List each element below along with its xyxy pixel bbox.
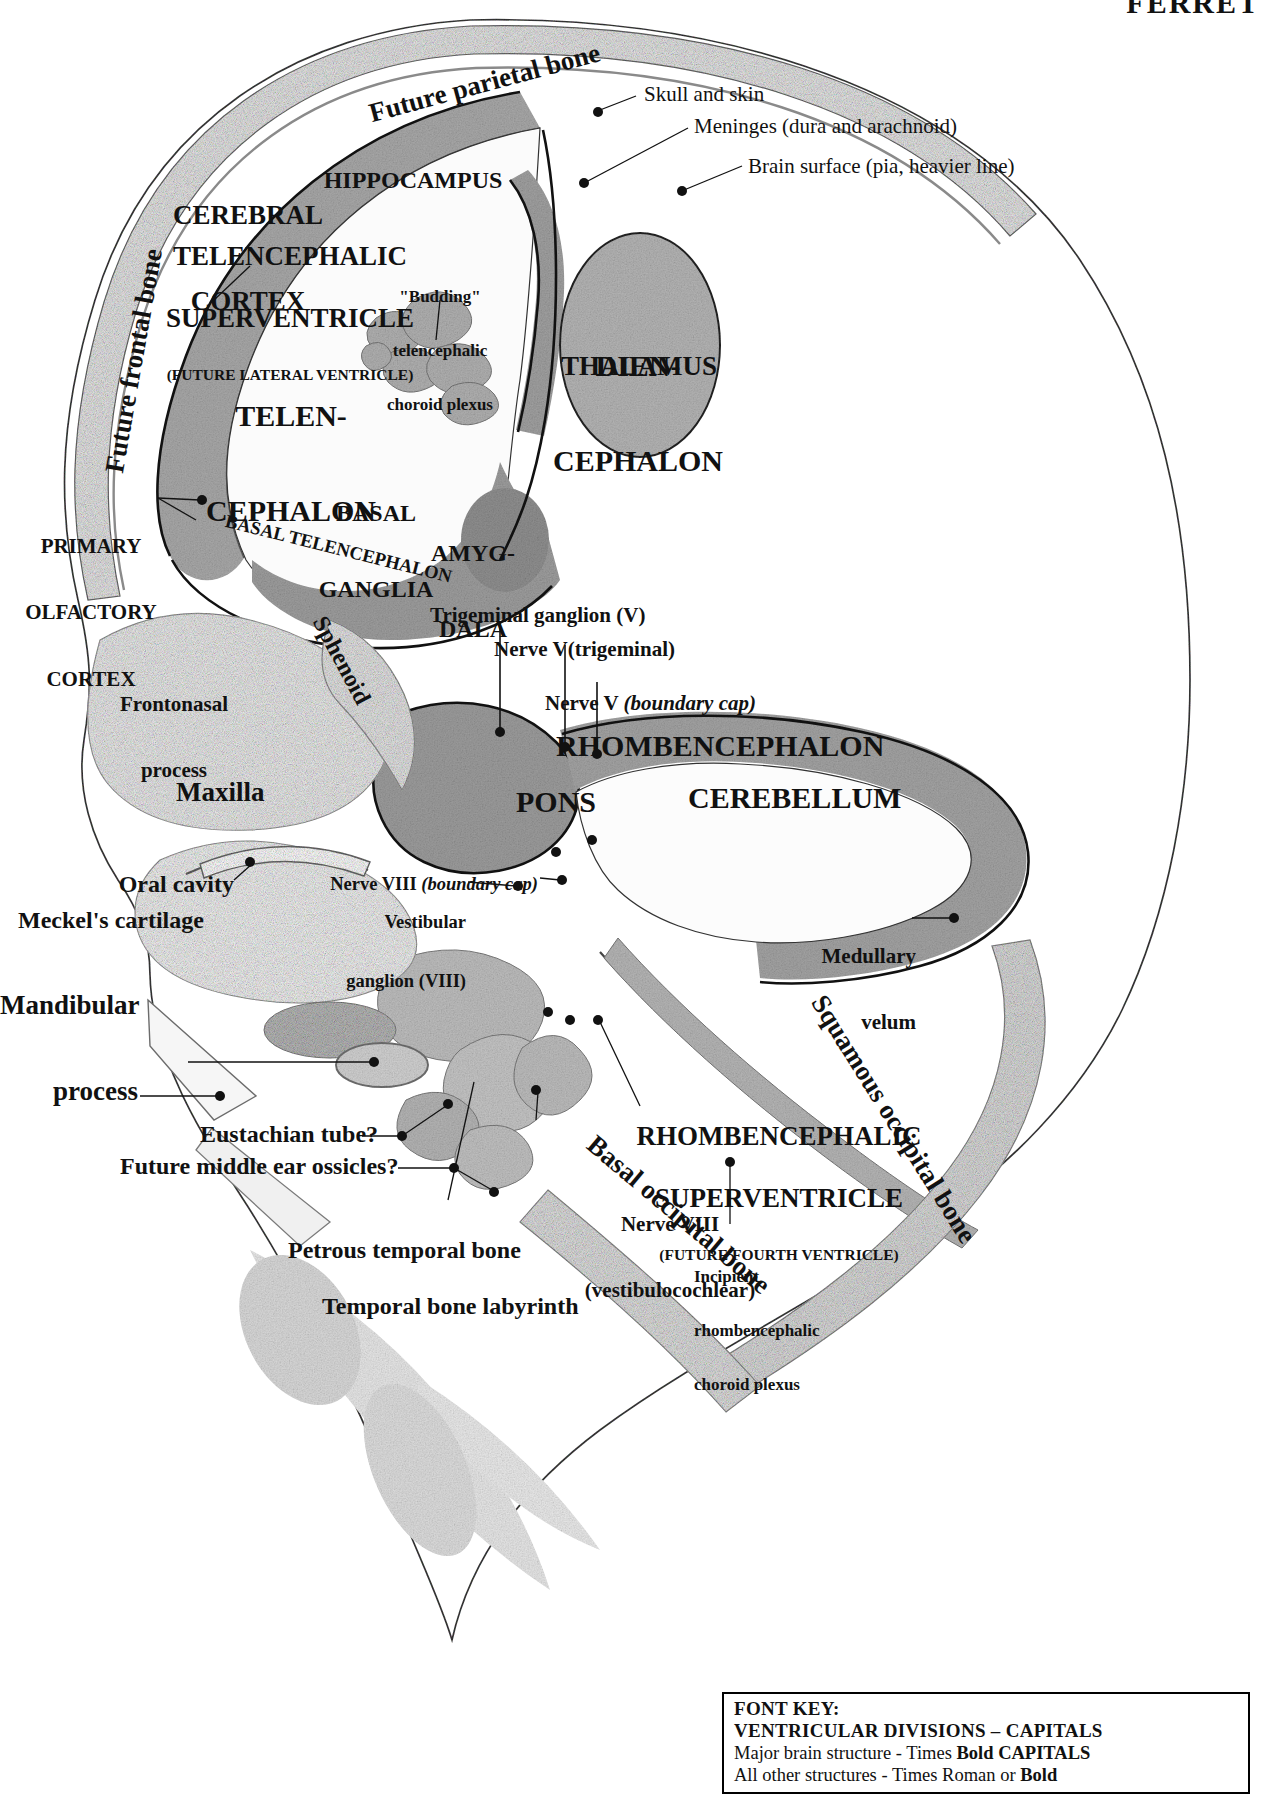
nerve-v-boundary-cap-qualifier: (boundary cap): [624, 691, 756, 715]
meckels-cartilage: [336, 1043, 428, 1087]
label-vestibular-ganglion: Vestibular ganglion (VIII): [290, 874, 466, 1031]
label-meninges: Meninges (dura and arachnoid): [694, 115, 957, 137]
label-meckels-cartilage: Meckel's cartilage: [18, 908, 184, 933]
label-skull-and-skin: Skull and skin: [644, 83, 764, 105]
figure-page: FERRET: [0, 0, 1278, 1805]
label-future-middle-ear-ossicles: Future middle ear ossicles?: [120, 1154, 392, 1179]
label-diencephalon: DIEN- CEPHALON: [540, 286, 736, 540]
font-key-line-2: Major brain structure - Times Bold CAPIT…: [734, 1743, 1240, 1765]
label-pons: PONS: [516, 786, 596, 818]
font-key-title: FONT KEY:: [734, 1698, 1240, 1720]
font-key-box: FONT KEY: VENTRICULAR DIVISIONS – CAPITA…: [722, 1692, 1250, 1794]
label-brain-surface: Brain surface (pia, heavier line): [748, 155, 1014, 177]
label-oral-cavity: Oral cavity: [110, 872, 234, 897]
label-amygdala: AMYG- DALA: [418, 490, 528, 694]
label-cerebellum: CEREBELLUM: [688, 782, 901, 814]
font-key-line-3: All other structures - Times Roman or Bo…: [734, 1765, 1240, 1787]
nerve-v-boundary-cap-name: Nerve V: [545, 691, 624, 715]
font-key-line-1: VENTRICULAR DIVISIONS – CAPITALS: [734, 1720, 1240, 1742]
label-thalamus: THALAMUS: [544, 352, 734, 381]
font-key-line-3-bold: Bold: [1020, 1765, 1057, 1785]
label-rhombencephalon: RHOMBENCEPHALON: [556, 730, 884, 762]
font-key-line-2-plain: Major brain structure - Times: [734, 1743, 957, 1763]
label-temporal-bone-labyrinth: Temporal bone labyrinth: [322, 1294, 579, 1319]
label-maxilla: Maxilla: [176, 778, 265, 807]
label-petrous-temporal-bone: Petrous temporal bone: [288, 1238, 521, 1263]
mandibular-process-wedge: [148, 1000, 256, 1120]
label-nerve-v-boundary-cap: Nerve V (boundary cap): [524, 670, 756, 737]
label-trigeminal-ganglion: Trigeminal ganglion (V): [430, 604, 645, 626]
label-nerve-v-trigeminal: Nerve V(trigeminal): [494, 638, 675, 660]
font-key-line-3-plain: All other structures - Times Roman or: [734, 1765, 1020, 1785]
font-key-line-2-bold: Bold CAPITALS: [957, 1743, 1091, 1763]
label-mandibular-process: Mandibular process: [0, 934, 138, 1163]
label-eustachian-tube: Eustachian tube?: [200, 1122, 358, 1147]
label-hippocampus: HIPPOCAMPUS: [318, 168, 508, 193]
lower-tissue-speckle: [215, 1234, 600, 1590]
